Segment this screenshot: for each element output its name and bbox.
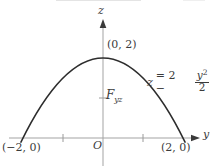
right-intercept-label: (2, 0) [161,142,191,154]
left-intercept-label: (−2, 0) [2,142,41,154]
y-axis-arrowhead-icon [191,135,200,142]
vertex-point-label: (0, 2) [107,39,137,51]
z-axis-arrowhead-icon [100,19,107,28]
region-subscript: yz [114,95,122,104]
y-axis-label: y [203,129,209,141]
equation-fraction: y2 2 [190,69,214,94]
equation-denominator: 2 [199,81,206,93]
equation-numerator-exponent: 2 [203,68,208,77]
z-axis-label: z [98,5,104,17]
curve-equation-label: z = 2 − y2 2 [147,69,214,95]
equation-middle: = 2 − [156,69,187,95]
equation-lhs: z [147,76,153,89]
origin-label: O [93,140,102,152]
region-label: Fyz [106,89,122,105]
parabola-figure: z y (0, 2) (−2, 0) (2, 0) O Fyz z = 2 − … [0,0,214,167]
